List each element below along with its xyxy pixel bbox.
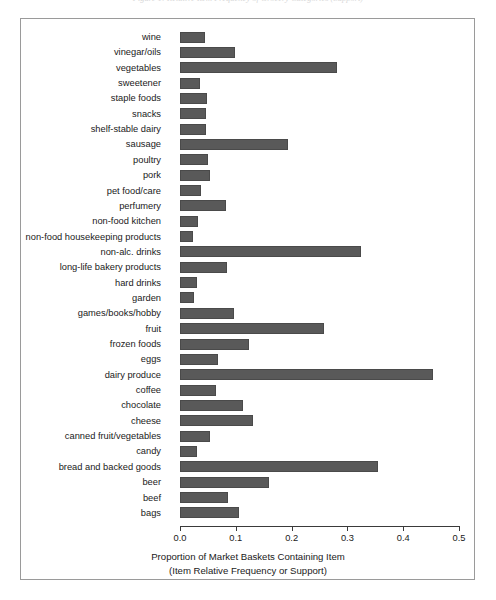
- bar-row: vinegar/oils: [0, 45, 496, 59]
- bar-category-label: non-alc. drinks: [0, 245, 161, 259]
- x-tick-mark: [236, 526, 237, 531]
- bar-category-label: coffee: [0, 383, 161, 397]
- bar-category-label: sausage: [0, 137, 161, 151]
- bar: [180, 124, 206, 135]
- bar: [180, 154, 208, 165]
- bar: [180, 461, 378, 472]
- bar: [180, 200, 226, 211]
- bar-row: chocolate: [0, 398, 496, 412]
- x-tick-label: 0.2: [272, 533, 312, 543]
- x-tick-label: 0.3: [327, 533, 367, 543]
- bar: [180, 62, 337, 73]
- x-tick-label: 0.5: [439, 533, 479, 543]
- x-tick-label: 0.4: [383, 533, 423, 543]
- bar: [180, 400, 243, 411]
- bar: [180, 78, 200, 89]
- bar-row: long-life bakery products: [0, 260, 496, 274]
- bar: [180, 216, 198, 227]
- bar: [180, 431, 210, 442]
- bar: [180, 477, 269, 488]
- bar-category-label: eggs: [0, 352, 161, 366]
- bar-category-label: garden: [0, 291, 161, 305]
- x-axis-line: [180, 526, 459, 527]
- figure-container: Figure 1: Relative Item Frequency of Gro…: [0, 0, 496, 600]
- bar: [180, 415, 253, 426]
- bar-category-label: canned fruit/vegetables: [0, 429, 161, 443]
- x-tick-mark: [292, 526, 293, 531]
- bar-category-label: sweetener: [0, 76, 161, 90]
- x-tick-mark: [180, 526, 181, 531]
- bar-row: beef: [0, 491, 496, 505]
- bar-row: coffee: [0, 383, 496, 397]
- bar-row: candy: [0, 444, 496, 458]
- x-tick-mark: [403, 526, 404, 531]
- bar: [180, 93, 207, 104]
- bar-row: vegetables: [0, 61, 496, 75]
- bar-row: canned fruit/vegetables: [0, 429, 496, 443]
- bar: [180, 262, 227, 273]
- bar: [180, 108, 206, 119]
- bar-row: non-food kitchen: [0, 214, 496, 228]
- bar: [180, 446, 197, 457]
- x-tick-label: 0.0: [160, 533, 200, 543]
- bar: [180, 339, 249, 350]
- bar-category-label: staple foods: [0, 91, 161, 105]
- bar-category-label: frozen foods: [0, 337, 161, 351]
- bar-row: bags: [0, 506, 496, 520]
- bar-category-label: pet food/care: [0, 184, 161, 198]
- bar-category-label: beef: [0, 491, 161, 505]
- bar-row: dairy produce: [0, 368, 496, 382]
- bar-row: games/books/hobby: [0, 306, 496, 320]
- bar: [180, 507, 239, 518]
- x-axis-title-line2: (Item Relative Frequency or Support): [0, 565, 496, 576]
- bar-row: hard drinks: [0, 276, 496, 290]
- bar-row: perfumery: [0, 199, 496, 213]
- x-tick-label: 0.1: [216, 533, 256, 543]
- bar-category-label: bread and backed goods: [0, 460, 161, 474]
- bar-row: sausage: [0, 137, 496, 151]
- bar-category-label: perfumery: [0, 199, 161, 213]
- bar: [180, 47, 235, 58]
- bar: [180, 231, 193, 242]
- bar-category-label: vegetables: [0, 61, 161, 75]
- bar-category-label: hard drinks: [0, 276, 161, 290]
- bar-category-label: long-life bakery products: [0, 260, 161, 274]
- bar: [180, 308, 234, 319]
- bar-row: non-food housekeeping products: [0, 230, 496, 244]
- bar-category-label: dairy produce: [0, 368, 161, 382]
- bar-category-label: cheese: [0, 414, 161, 428]
- bar: [180, 492, 228, 503]
- bar: [180, 32, 205, 43]
- bar-category-label: bags: [0, 506, 161, 520]
- bar-row: fruit: [0, 322, 496, 336]
- bar-row: frozen foods: [0, 337, 496, 351]
- x-tick-mark: [347, 526, 348, 531]
- bar: [180, 170, 210, 181]
- bar: [180, 292, 194, 303]
- x-tick-mark: [459, 526, 460, 531]
- bar-row: snacks: [0, 107, 496, 121]
- bar-category-label: vinegar/oils: [0, 45, 161, 59]
- bar-category-label: wine: [0, 30, 161, 44]
- bar-row: sweetener: [0, 76, 496, 90]
- bar: [180, 185, 201, 196]
- bar-row: staple foods: [0, 91, 496, 105]
- bar-row: wine: [0, 30, 496, 44]
- bar-category-label: poultry: [0, 153, 161, 167]
- bar-category-label: pork: [0, 168, 161, 182]
- bar-category-label: snacks: [0, 107, 161, 121]
- bar-chart: winevinegar/oilsvegetablessweetenerstapl…: [0, 0, 496, 600]
- bar-row: shelf-stable dairy: [0, 122, 496, 136]
- bar: [180, 139, 288, 150]
- bar: [180, 354, 218, 365]
- bar-category-label: beer: [0, 475, 161, 489]
- bar: [180, 246, 361, 257]
- bar: [180, 385, 216, 396]
- bar: [180, 369, 433, 380]
- bar-category-label: shelf-stable dairy: [0, 122, 161, 136]
- bar-category-label: candy: [0, 444, 161, 458]
- bar-row: pet food/care: [0, 184, 496, 198]
- bar: [180, 277, 197, 288]
- bar-category-label: chocolate: [0, 398, 161, 412]
- bar-category-label: non-food kitchen: [0, 214, 161, 228]
